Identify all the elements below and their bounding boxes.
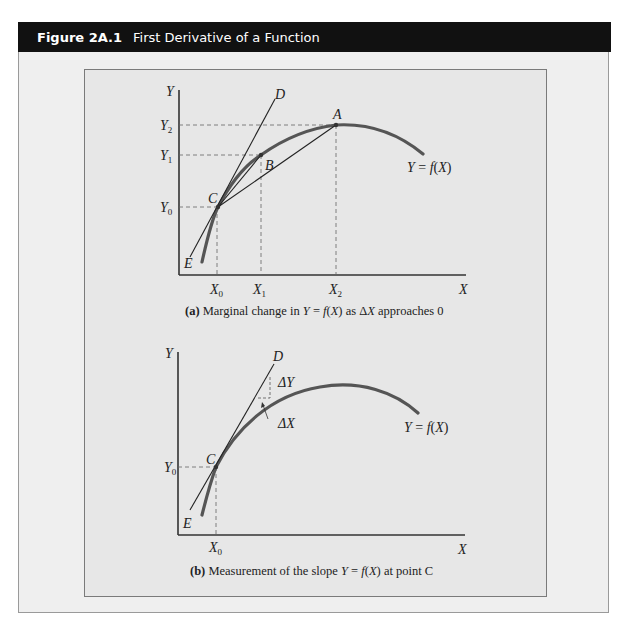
panel-a-x-axis-label: X: [458, 282, 468, 297]
panel-a-secant-ca: [218, 125, 336, 207]
panel-a-caption: (a) Marginal change in Y = f(X) as ΔX ap…: [185, 304, 444, 318]
panel-a-x2-label: X2: [328, 282, 342, 299]
panel-a: Y X Y2 Y1 Y0 X0 X1 X2 D A B C E Y = f(X)…: [160, 84, 468, 318]
panel-b-y0-label: Y0: [164, 460, 177, 477]
panel-a-point-d-label: D: [274, 87, 285, 102]
diagram-canvas: Y X Y2 Y1 Y0 X0 X1 X2 D A B C E Y = f(X)…: [0, 0, 629, 640]
panel-a-point-e-label: E: [183, 256, 193, 271]
panel-a-function-label: Y = f(X): [407, 160, 452, 176]
panel-b-point-c-label: C: [206, 452, 216, 467]
panel-b-tangent-line: [190, 364, 274, 510]
panel-a-point-c-label: C: [208, 191, 218, 206]
panel-b-arrowhead-icon: [261, 402, 265, 408]
panel-a-function-curve: [202, 125, 423, 262]
panel-b-slope-triangle: [258, 377, 270, 398]
panel-b-y-axis-label: Y: [165, 346, 175, 361]
panel-a-point-a: [334, 123, 338, 127]
panel-b-x0-label: X0: [208, 540, 223, 557]
panel-a-y1-label: Y1: [160, 148, 172, 165]
panel-b-x-axis-label: X: [457, 542, 467, 557]
panel-b-point-d-label: D: [272, 349, 283, 364]
panel-a-y-axis-label: Y: [166, 84, 176, 99]
panel-a-point-a-label: A: [332, 107, 342, 122]
panel-a-x1-label: X1: [252, 282, 266, 299]
panel-a-point-b-label: B: [265, 158, 274, 173]
panel-a-y2-label: Y2: [160, 118, 172, 135]
panel-b-delta-y-label: ΔY: [277, 375, 296, 390]
panel-a-y0-label: Y0: [160, 200, 173, 217]
panel-b-caption: (b) Measurement of the slope Y = f(X) at…: [190, 564, 433, 578]
panel-a-tangent-line: [190, 99, 275, 257]
panel-b: Y X Y0 X0 D C E ΔY ΔX Y = f(X) (b) Measu…: [164, 346, 467, 578]
panel-b-function-label: Y = f(X): [404, 420, 449, 436]
panel-b-delta-x-label: ΔX: [277, 416, 295, 431]
panel-b-function-curve: [202, 385, 418, 515]
panel-a-x0-label: X0: [209, 282, 224, 299]
panel-a-point-b: [259, 153, 263, 157]
panel-b-point-e-label: E: [182, 516, 192, 531]
